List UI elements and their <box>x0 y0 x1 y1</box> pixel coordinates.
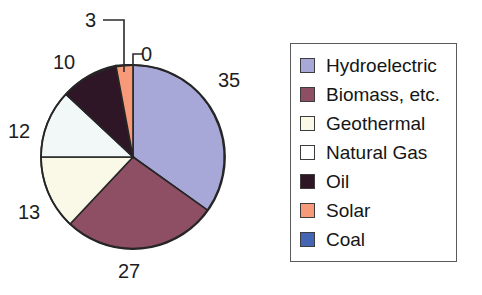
legend-item-natural-gas[interactable]: Natural Gas <box>291 138 456 167</box>
legend-swatch-natural-gas <box>300 145 315 160</box>
legend-swatch-biomass <box>300 87 315 102</box>
pie-label-oil: 10 <box>53 52 75 72</box>
pie-label-solar: 3 <box>85 10 96 30</box>
legend-item-biomass[interactable]: Biomass, etc. <box>291 80 456 109</box>
legend-item-hydroelectric[interactable]: Hydroelectric <box>291 51 456 80</box>
pie-plot-area: 35 27 13 12 10 3 0 <box>0 0 285 295</box>
legend-swatch-solar <box>300 203 315 218</box>
legend-label-natural-gas: Natural Gas <box>326 143 427 162</box>
legend-label-geothermal: Geothermal <box>326 114 425 133</box>
legend-item-solar[interactable]: Solar <box>291 196 456 225</box>
pie-label-geothermal: 13 <box>18 202 40 222</box>
pie-label-natural-gas: 12 <box>8 121 30 141</box>
chart-legend: Hydroelectric Biomass, etc. Geothermal N… <box>290 43 457 262</box>
pie-label-coal: 0 <box>141 44 152 64</box>
legend-swatch-oil <box>300 174 315 189</box>
legend-item-geothermal[interactable]: Geothermal <box>291 109 456 138</box>
leader-line-solar <box>103 20 124 72</box>
legend-swatch-hydroelectric <box>300 58 315 73</box>
legend-label-biomass: Biomass, etc. <box>326 85 440 104</box>
legend-item-oil[interactable]: Oil <box>291 167 456 196</box>
legend-label-coal: Coal <box>326 230 365 249</box>
legend-label-oil: Oil <box>326 172 349 191</box>
pie-label-hydroelectric: 35 <box>218 70 240 90</box>
legend-swatch-geothermal <box>300 116 315 131</box>
legend-swatch-coal <box>300 232 315 247</box>
pie-chart-figure: 35 27 13 12 10 3 0 Hydroelectric Biomass… <box>0 0 482 295</box>
legend-label-hydroelectric: Hydroelectric <box>326 56 437 75</box>
legend-label-solar: Solar <box>326 201 370 220</box>
legend-item-coal[interactable]: Coal <box>291 225 456 254</box>
pie-label-biomass: 27 <box>118 261 140 281</box>
